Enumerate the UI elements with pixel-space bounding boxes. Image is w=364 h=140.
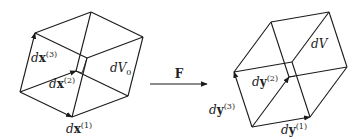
dy2-label: dy(2) xyxy=(252,74,278,89)
dx2-label: dx(2) xyxy=(49,76,75,91)
dy3-arrow xyxy=(234,72,252,127)
dV0-label: dV0 xyxy=(110,61,131,77)
dx1-arrow xyxy=(20,92,72,117)
dy1-label: dy(1) xyxy=(281,122,307,137)
deformation-diagram: dx(3) dx(2) dx(1) dV0 F dy(2) dy(3) dy(1… xyxy=(0,0,364,140)
mapping-F-label: F xyxy=(175,67,184,81)
dx3-label: dx(3) xyxy=(31,50,57,65)
dx1-label: dx(1) xyxy=(66,121,92,136)
dy3-label: dy(3) xyxy=(209,102,235,117)
deformed-parallelepiped xyxy=(234,12,347,127)
dV-label: dV xyxy=(311,37,329,51)
